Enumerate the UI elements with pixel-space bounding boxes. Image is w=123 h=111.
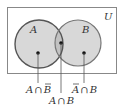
svg-text:A∩B: A∩B [25,84,51,95]
set-a-label: A [29,24,37,35]
venn-diagram: U A B A∩B A∩B A∩B [0,0,123,111]
set-b-label: B [81,24,89,35]
region-label-not-a-and-b: A∩B [71,84,97,95]
region-label-a-and-b: A∩B [48,95,74,106]
universe-label: U [104,11,113,22]
svg-text:A∩B: A∩B [48,95,74,106]
svg-text:A∩B: A∩B [71,84,97,95]
region-label-a-not-b: A∩B [25,84,51,95]
